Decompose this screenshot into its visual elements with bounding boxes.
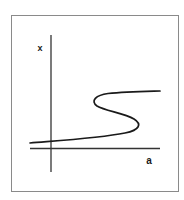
x-axis-label: a (146, 155, 152, 166)
y-axis-label: x (37, 43, 42, 53)
diagram-canvas: x a (0, 0, 184, 200)
s-shaped-curve (30, 91, 160, 143)
